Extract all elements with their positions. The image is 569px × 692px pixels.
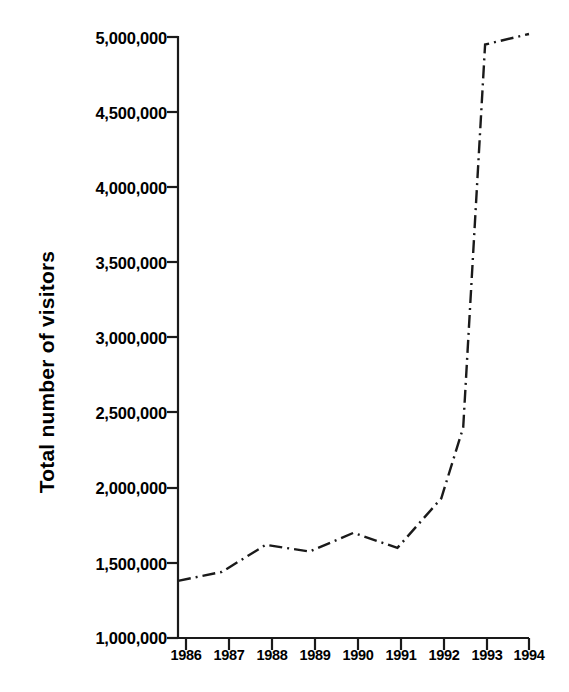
line-chart: Total number of visitors 5,000,000 4,500… xyxy=(0,0,569,692)
x-axis-tick-labels: 1986 1987 1988 1989 1990 1991 1992 1993 … xyxy=(0,0,569,692)
x-tick-label: 1994 xyxy=(497,648,561,663)
